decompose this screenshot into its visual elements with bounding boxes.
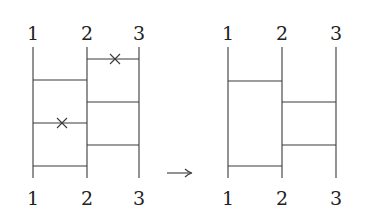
left-top-label-3: 3 xyxy=(133,22,145,44)
right-bottom-label-2: 2 xyxy=(276,187,288,209)
left-top-label-1: 1 xyxy=(27,22,39,44)
left-bottom-label-1: 1 xyxy=(27,187,39,209)
left-ladder: 1 2 3 1 2 3 xyxy=(27,22,145,209)
left-top-label-2: 2 xyxy=(81,22,93,44)
arrow-right-icon xyxy=(167,169,192,177)
left-bottom-label-3: 3 xyxy=(133,187,145,209)
right-bottom-label-1: 1 xyxy=(222,187,234,209)
left-bottom-label-2: 2 xyxy=(81,187,93,209)
right-ladder: 1 2 3 1 2 3 xyxy=(222,22,342,209)
right-top-label-1: 1 xyxy=(222,22,234,44)
right-top-label-2: 2 xyxy=(276,22,288,44)
right-bottom-label-3: 3 xyxy=(330,187,342,209)
ladder-diagram: 1 2 3 1 2 3 1 2 3 xyxy=(0,0,365,216)
right-top-label-3: 3 xyxy=(330,22,342,44)
